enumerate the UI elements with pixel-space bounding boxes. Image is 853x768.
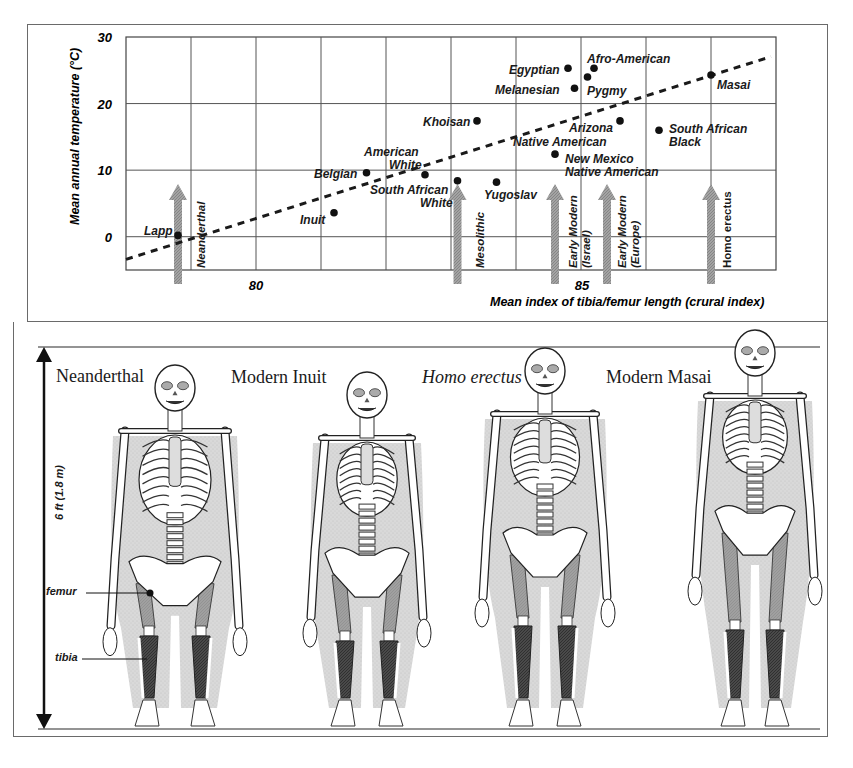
label-mesolithic: Mesolithic [474, 211, 486, 268]
label-nm-1: New Mexico [565, 152, 634, 166]
data-point [584, 73, 592, 81]
x-tick-85: 85 [575, 278, 590, 293]
arrow-up-icon [702, 184, 720, 200]
tibia-callout: tibia [55, 651, 78, 663]
y-tick-20: 20 [97, 97, 113, 112]
label-sa-black-1: South African [669, 122, 747, 136]
label-em-europe-2: (Europe) [629, 221, 641, 268]
label-em-israel-1: Early Modern [567, 195, 579, 268]
label-neanderthal: Neanderthal [195, 201, 207, 268]
y-tick-0: 0 [105, 230, 113, 245]
label-belgian: Belgian [314, 167, 357, 181]
skeleton-label-neanderthal: Neanderthal [56, 366, 144, 387]
label-sa-black-2: Black [669, 135, 702, 149]
data-point [174, 232, 182, 240]
skeleton-label-modern-inuit: Modern Inuit [231, 367, 326, 388]
x-tick-80: 80 [249, 278, 264, 293]
arrow-up-icon [598, 184, 616, 200]
label-arizona-1: Arizona [568, 121, 613, 135]
skeleton-label-homo-erectus: Homo erectus [422, 367, 522, 388]
data-point [571, 84, 579, 92]
label-masai: Masai [717, 78, 751, 92]
label-american-white-1: American [363, 145, 419, 159]
fossil-arrow-shaft [551, 196, 559, 284]
scatter-chart: 30 20 10 0 80 85 Mean annual temperature… [0, 0, 853, 322]
data-point [363, 169, 371, 177]
data-point [330, 209, 338, 217]
chart-grid [126, 37, 776, 270]
fossil-arrow-shaft [454, 196, 462, 284]
label-khoisan: Khoisan [423, 115, 470, 129]
data-point [473, 117, 481, 125]
label-yugoslav: Yugoslav [484, 188, 538, 202]
label-lapp: Lapp [144, 224, 173, 238]
label-inuit: Inuit [300, 213, 326, 227]
label-melanesian: Melanesian [495, 83, 560, 97]
data-points [174, 64, 715, 239]
data-point [616, 117, 624, 125]
label-nm-2: Native American [565, 165, 659, 179]
skeleton-label-modern-masai: Modern Masai [606, 367, 711, 388]
data-point [707, 71, 715, 79]
scale-label: 6 ft (1.8 m) [53, 465, 65, 520]
data-point [655, 126, 663, 134]
label-sa-white-2: White [420, 196, 453, 210]
label-homo-erectus: Homo erectus [721, 191, 733, 268]
fossil-arrow-shaft [707, 196, 715, 284]
x-axis-label: Mean index of tibia/femur length (crural… [490, 295, 764, 309]
label-american-white-2: White [389, 158, 422, 172]
label-afro-american: Afro-American [586, 52, 670, 66]
label-pygmy: Pygmy [587, 84, 628, 98]
arrow-up-icon [546, 184, 564, 200]
label-em-europe-1: Early Modern [616, 195, 628, 268]
femur-callout: femur [46, 585, 77, 597]
label-egyptian: Egyptian [509, 63, 560, 77]
data-point [454, 177, 462, 185]
arrow-up-icon [169, 184, 187, 200]
y-tick-30: 30 [98, 30, 113, 45]
label-sa-white-1: South African [370, 183, 448, 197]
fossil-arrow-shaft [603, 196, 611, 284]
fossil-arrow-shaft [174, 196, 182, 284]
trend-line [126, 57, 771, 260]
data-point [551, 150, 559, 158]
label-em-israel-2: (Israel) [580, 230, 592, 268]
data-point [421, 171, 429, 179]
y-axis-label: Mean annual temperature (°C) [68, 48, 82, 225]
y-tick-10: 10 [98, 163, 113, 178]
data-point [493, 178, 501, 186]
label-arizona-2: Native American [513, 135, 607, 149]
data-point [564, 64, 572, 72]
